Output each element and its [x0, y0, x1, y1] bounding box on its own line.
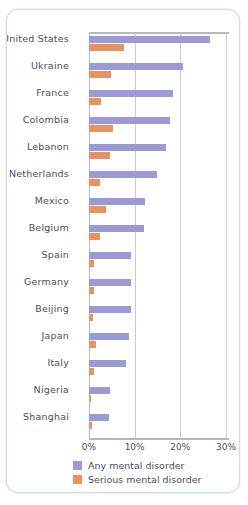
- category-label: Colombia: [6, 114, 69, 125]
- legend-label: Serious mental disorder: [88, 474, 202, 485]
- bar-serious-mental-disorder: [89, 125, 113, 132]
- legend-label: Any mental disorder: [88, 460, 184, 471]
- bar-serious-mental-disorder: [89, 422, 92, 429]
- chart-row: Germany: [89, 276, 226, 303]
- category-label: Netherlands: [6, 168, 69, 179]
- legend-swatch-icon: [73, 475, 82, 484]
- chart-row: Colombia: [89, 114, 226, 141]
- chart-row: Italy: [89, 357, 226, 384]
- x-tick-label: 30%: [216, 442, 236, 452]
- x-tick-label: 20%: [170, 442, 190, 452]
- x-tick-label: 10%: [125, 442, 145, 452]
- chart-row: Beijing: [89, 303, 226, 330]
- bar-chart: United StatesUkraineFranceColombiaLebano…: [7, 10, 240, 493]
- bar-serious-mental-disorder: [89, 341, 96, 348]
- bar-any-mental-disorder: [89, 360, 126, 367]
- bar-any-mental-disorder: [89, 387, 110, 394]
- category-label: Ukraine: [6, 60, 69, 71]
- bar-any-mental-disorder: [89, 144, 166, 151]
- chart-row: United States: [89, 33, 226, 60]
- category-label: France: [6, 87, 69, 98]
- chart-card: United StatesUkraineFranceColombiaLebano…: [6, 9, 240, 493]
- category-label: Japan: [6, 330, 69, 341]
- bar-any-mental-disorder: [89, 90, 173, 97]
- category-label: Mexico: [6, 195, 69, 206]
- bar-serious-mental-disorder: [89, 98, 101, 105]
- bar-serious-mental-disorder: [89, 152, 110, 159]
- bar-serious-mental-disorder: [89, 314, 93, 321]
- chart-row: Belgium: [89, 222, 226, 249]
- bar-serious-mental-disorder: [89, 368, 94, 375]
- bar-serious-mental-disorder: [89, 71, 111, 78]
- bar-serious-mental-disorder: [89, 287, 94, 294]
- category-label: Lebanon: [6, 141, 69, 152]
- bar-any-mental-disorder: [89, 414, 109, 421]
- plot-bottom-rule: [89, 438, 229, 440]
- chart-row: France: [89, 87, 226, 114]
- bar-serious-mental-disorder: [89, 260, 94, 267]
- bar-any-mental-disorder: [89, 306, 131, 313]
- bar-any-mental-disorder: [89, 63, 183, 70]
- category-label: Beijing: [6, 303, 69, 314]
- bar-serious-mental-disorder: [89, 233, 100, 240]
- category-label: United States: [6, 33, 69, 44]
- bar-any-mental-disorder: [89, 117, 170, 124]
- bar-any-mental-disorder: [89, 171, 157, 178]
- category-label: Italy: [6, 357, 69, 368]
- chart-row: Shanghai: [89, 411, 226, 438]
- bar-serious-mental-disorder: [89, 395, 91, 402]
- chart-row: Nigeria: [89, 384, 226, 411]
- bar-any-mental-disorder: [89, 252, 131, 259]
- category-label: Spain: [6, 249, 69, 260]
- chart-row: Spain: [89, 249, 226, 276]
- chart-row: Japan: [89, 330, 226, 357]
- category-label: Nigeria: [6, 384, 69, 395]
- bar-serious-mental-disorder: [89, 44, 124, 51]
- chart-legend: Any mental disorderSerious mental disord…: [7, 460, 240, 488]
- chart-row: Ukraine: [89, 60, 226, 87]
- bar-any-mental-disorder: [89, 333, 129, 340]
- gridline-30pct: [226, 33, 227, 438]
- category-label: Germany: [6, 276, 69, 287]
- legend-swatch-icon: [73, 461, 82, 470]
- bar-any-mental-disorder: [89, 225, 144, 232]
- bar-any-mental-disorder: [89, 36, 210, 43]
- legend-item[interactable]: Serious mental disorder: [73, 474, 240, 485]
- chart-row: Mexico: [89, 195, 226, 222]
- category-label: Belgium: [6, 222, 69, 233]
- plot-area: United StatesUkraineFranceColombiaLebano…: [89, 33, 226, 438]
- bar-serious-mental-disorder: [89, 179, 100, 186]
- chart-row: Lebanon: [89, 141, 226, 168]
- bar-any-mental-disorder: [89, 198, 145, 205]
- bar-any-mental-disorder: [89, 279, 131, 286]
- x-tick-label: 0%: [82, 442, 96, 452]
- chart-row: Netherlands: [89, 168, 226, 195]
- bar-serious-mental-disorder: [89, 206, 106, 213]
- legend-item[interactable]: Any mental disorder: [73, 460, 240, 471]
- category-label: Shanghai: [6, 411, 69, 422]
